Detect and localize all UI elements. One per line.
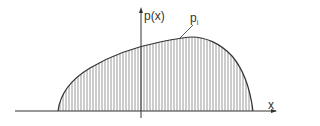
x-axis-label: x: [268, 99, 274, 111]
strip-label-subscript: i: [197, 19, 199, 26]
y-axis-label: p(x): [144, 10, 165, 22]
pi-leader-line: [180, 25, 193, 38]
strip-label-base: p: [190, 11, 197, 25]
hatch-strips: [60, 30, 252, 111]
y-axis-arrow-icon: [139, 7, 143, 13]
strip-label: pi: [190, 12, 198, 26]
